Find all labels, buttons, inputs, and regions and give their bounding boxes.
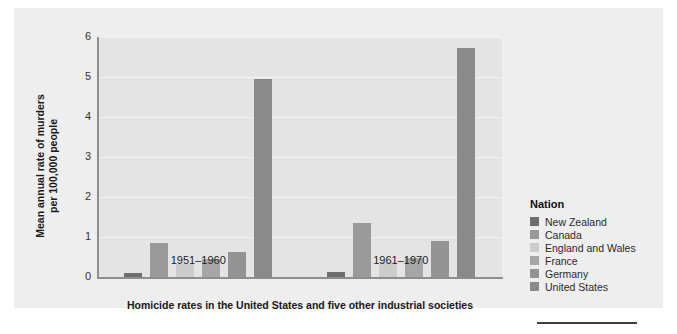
y-axis-tick-label: 3 <box>71 150 91 162</box>
bar <box>457 48 475 277</box>
legend-swatch-icon <box>530 243 539 252</box>
x-axis-group-label: 1951–1960 <box>118 254 278 266</box>
legend: Nation New ZealandCanadaEngland and Wale… <box>530 198 670 293</box>
legend-item: Canada <box>530 228 670 241</box>
legend-swatch-icon <box>530 269 539 278</box>
y-axis-tick-label: 5 <box>71 70 91 82</box>
y-axis-tick-label: 6 <box>71 30 91 42</box>
y-axis-tick-label: 0 <box>71 270 91 282</box>
legend-item: New Zealand <box>530 215 670 228</box>
legend-item: France <box>530 254 670 267</box>
bar <box>124 273 142 277</box>
legend-swatch-icon <box>530 230 539 239</box>
footer-rule <box>537 322 637 324</box>
y-axis-tick-label: 2 <box>71 190 91 202</box>
bar-group <box>327 37 475 277</box>
bar <box>353 223 371 277</box>
legend-item-label: Germany <box>545 268 588 280</box>
legend-item-label: Canada <box>545 229 582 241</box>
legend-swatch-icon <box>530 256 539 265</box>
chart-screenshot: 0123456 Mean annual rate of murders per … <box>0 0 677 334</box>
legend-item-label: England and Wales <box>545 242 636 254</box>
chart-panel: 0123456 Mean annual rate of murders per … <box>14 8 663 308</box>
legend-item: United States <box>530 280 670 293</box>
y-axis-line <box>97 37 99 278</box>
legend-swatch-icon <box>530 282 539 291</box>
legend-swatch-icon <box>530 217 539 226</box>
legend-item-label: United States <box>545 281 608 293</box>
y-axis-label: Mean annual rate of murders per 100,000 … <box>34 66 60 266</box>
legend-title: Nation <box>530 198 670 210</box>
bar <box>327 272 345 277</box>
bar <box>254 79 272 277</box>
legend-item: Germany <box>530 267 670 280</box>
y-axis-label-line1: Mean annual rate of murders <box>34 94 46 238</box>
y-axis-label-line2: per 100,000 people <box>47 119 59 213</box>
legend-items: New ZealandCanadaEngland and WalesFrance… <box>530 215 670 293</box>
bar-group <box>124 37 272 277</box>
legend-item: England and Wales <box>530 241 670 254</box>
y-axis-tick-label: 1 <box>71 230 91 242</box>
y-axis-tick-label: 4 <box>71 110 91 122</box>
legend-item-label: France <box>545 255 578 267</box>
chart-caption: Homicide rates in the United States and … <box>97 299 503 311</box>
x-axis-group-label: 1961–1970 <box>321 254 481 266</box>
legend-item-label: New Zealand <box>545 216 607 228</box>
x-axis-line <box>97 277 503 279</box>
bar <box>176 264 194 277</box>
